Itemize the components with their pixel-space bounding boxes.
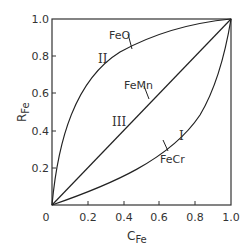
x-tick-0.4: 0.4 <box>115 211 133 224</box>
x-tick-0.6: 0.6 <box>150 211 168 224</box>
label-feo: FeO <box>109 29 130 42</box>
label-roman-2: II <box>98 52 108 66</box>
y-tick-0.2: 0.2 <box>32 162 50 175</box>
label-roman-3: III <box>112 115 126 129</box>
x-tick-0.8: 0.8 <box>186 211 204 224</box>
x-tick-1.0: 1.0 <box>222 211 240 224</box>
y-axis-label: RFe <box>15 102 31 122</box>
fecr-leader <box>163 140 168 151</box>
x-ticks <box>88 201 195 205</box>
y-tick-1.0: 1.0 <box>32 13 50 26</box>
curve-femn <box>52 19 231 205</box>
label-femn: FeMn <box>124 79 153 92</box>
x-tick-0.2: 0.2 <box>79 211 97 224</box>
x-tick-0: 0 <box>43 211 50 224</box>
label-roman-1: I <box>179 129 184 143</box>
chart: 1.0 0.8 0.6 0.4 0.2 0 0.2 0.4 0.6 0.8 1.… <box>0 0 249 251</box>
y-tick-0.8: 0.8 <box>32 50 50 63</box>
y-tick-0.6: 0.6 <box>32 87 50 100</box>
x-axis-label: CFe <box>127 229 147 245</box>
label-fecr: FeCr <box>160 153 185 166</box>
y-tick-0.4: 0.4 <box>32 125 50 138</box>
